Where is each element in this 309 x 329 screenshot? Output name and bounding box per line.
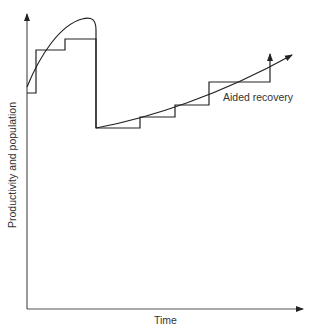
aided-recovery-label: Aided recovery — [223, 91, 294, 103]
x-axis-label: Time — [154, 314, 177, 326]
productivity-curve-initial — [27, 18, 96, 128]
diagram-canvas: Aided recovery Time Productivity and pop… — [0, 0, 309, 329]
y-axis-label: Productivity and population — [6, 102, 18, 228]
